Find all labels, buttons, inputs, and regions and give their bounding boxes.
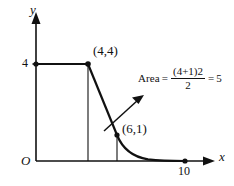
graph-canvas [0,0,234,186]
fraction-numerator: (4+1)2 [171,66,205,77]
x-axis-arrowhead [203,157,215,166]
point-label-6-1: (6,1) [122,122,147,135]
decay-tail-segment [117,135,185,161]
point-marker-4-4 [85,61,91,67]
area-result: 5 [216,73,222,84]
area-equals-second: = [208,73,214,84]
function-graph-figure: y x O 4 10 (4,4) (6,1) Area = (4+1)2 2 =… [0,0,234,186]
x-tick-label-10: 10 [178,165,190,177]
fraction-denominator: 2 [183,80,193,91]
point-marker-10-0 [182,158,187,163]
origin-label: O [21,154,30,167]
area-equals-first: = [162,73,168,84]
point-label-4-4: (4,4) [93,44,118,57]
area-word: Area [138,73,160,84]
y-axis-label: y [30,3,36,16]
linear-drop-segment [88,64,117,135]
point-marker-y4 [33,61,38,66]
area-annotation: Area = (4+1)2 2 = 5 [138,66,222,91]
y-tick-label-4: 4 [22,57,28,69]
point-marker-6-1 [114,132,119,137]
y-axis [32,12,41,161]
x-axis-label: x [219,150,225,163]
area-fraction: (4+1)2 2 [171,66,205,91]
leader-arrow-head [132,95,144,104]
